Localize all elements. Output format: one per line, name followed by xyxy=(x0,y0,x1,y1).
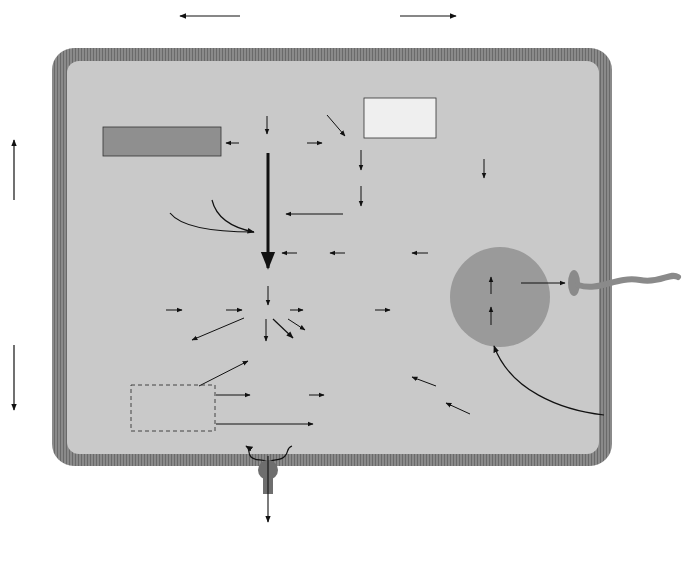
cell-diagram xyxy=(0,0,691,574)
entner-doudoroff-box xyxy=(364,98,436,138)
pentose-phosphate-box xyxy=(103,127,221,156)
